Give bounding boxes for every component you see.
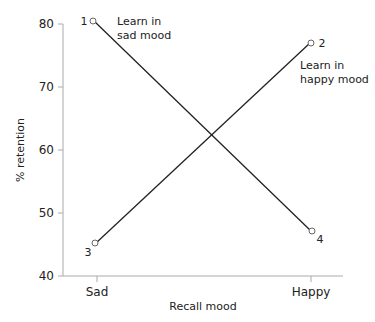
data-point-2 (308, 40, 314, 46)
series-learn-happy-line (96, 43, 310, 243)
y-tick-label: 70 (39, 80, 54, 94)
series-learn-sad-line (94, 21, 311, 231)
data-point-3 (92, 240, 98, 246)
annotation-happy-line2: happy mood (300, 73, 369, 86)
line-chart: 80 70 60 50 40 Sad Happy Recall mood % r… (0, 0, 375, 322)
y-tick-label: 60 (39, 143, 54, 157)
annotation-happy-line1: Learn in (300, 59, 344, 72)
point-label-3: 3 (85, 246, 92, 259)
y-tick-label: 50 (39, 206, 54, 220)
y-tick-label: 80 (39, 17, 54, 31)
x-tick-label-happy: Happy (292, 285, 331, 299)
x-tick-label-sad: Sad (86, 285, 109, 299)
annotation-sad-line1: Learn in (117, 15, 161, 28)
data-point-4 (309, 228, 315, 234)
annotation-sad-line2: sad mood (117, 29, 171, 42)
point-label-4: 4 (317, 233, 324, 246)
data-point-1 (90, 18, 96, 24)
point-label-1: 1 (81, 15, 88, 28)
y-axis-title: % retention (14, 118, 27, 182)
point-label-2: 2 (319, 37, 326, 50)
y-tick-label: 40 (39, 269, 54, 283)
x-axis-title: Recall mood (169, 300, 236, 313)
